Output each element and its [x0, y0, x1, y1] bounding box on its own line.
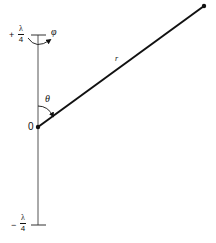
theta-label: θ — [45, 94, 50, 104]
bottom-limit-numerator: λ — [21, 214, 25, 222]
bottom-limit-denominator: 4 — [21, 225, 25, 233]
phi-label: φ — [51, 27, 57, 37]
top-limit-denominator: 4 — [19, 36, 23, 44]
bottom-limit-fraction: λ 4 — [20, 214, 26, 233]
origin-label: 0 — [28, 122, 34, 132]
theta-arc — [38, 106, 53, 116]
top-limit-fraction: λ 4 — [18, 25, 24, 44]
bottom-limit-sign: − — [11, 220, 16, 230]
top-limit-numerator: λ — [19, 25, 23, 33]
phi-arc — [28, 38, 50, 45]
radius-label: r — [115, 55, 118, 63]
endpoint-dot — [202, 4, 206, 8]
origin-point — [36, 125, 40, 129]
top-limit-sign: + — [9, 30, 14, 40]
radius-vector — [38, 6, 204, 127]
